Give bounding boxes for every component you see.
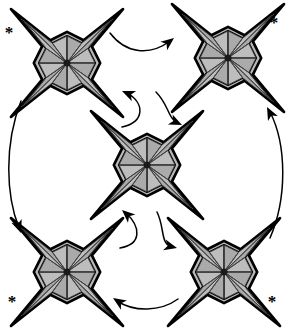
asterisk-bottom-right: *: [268, 292, 277, 311]
asterisk-bottom-left: *: [8, 292, 17, 311]
asterisk-top-right: *: [270, 13, 279, 32]
origami-diagram-canvas: Origami four-pointed star folding sequen…: [0, 0, 290, 330]
asterisk-top-left: *: [5, 23, 14, 42]
origami-figure-root: Origami four-pointed star folding sequen…: [0, 0, 290, 330]
